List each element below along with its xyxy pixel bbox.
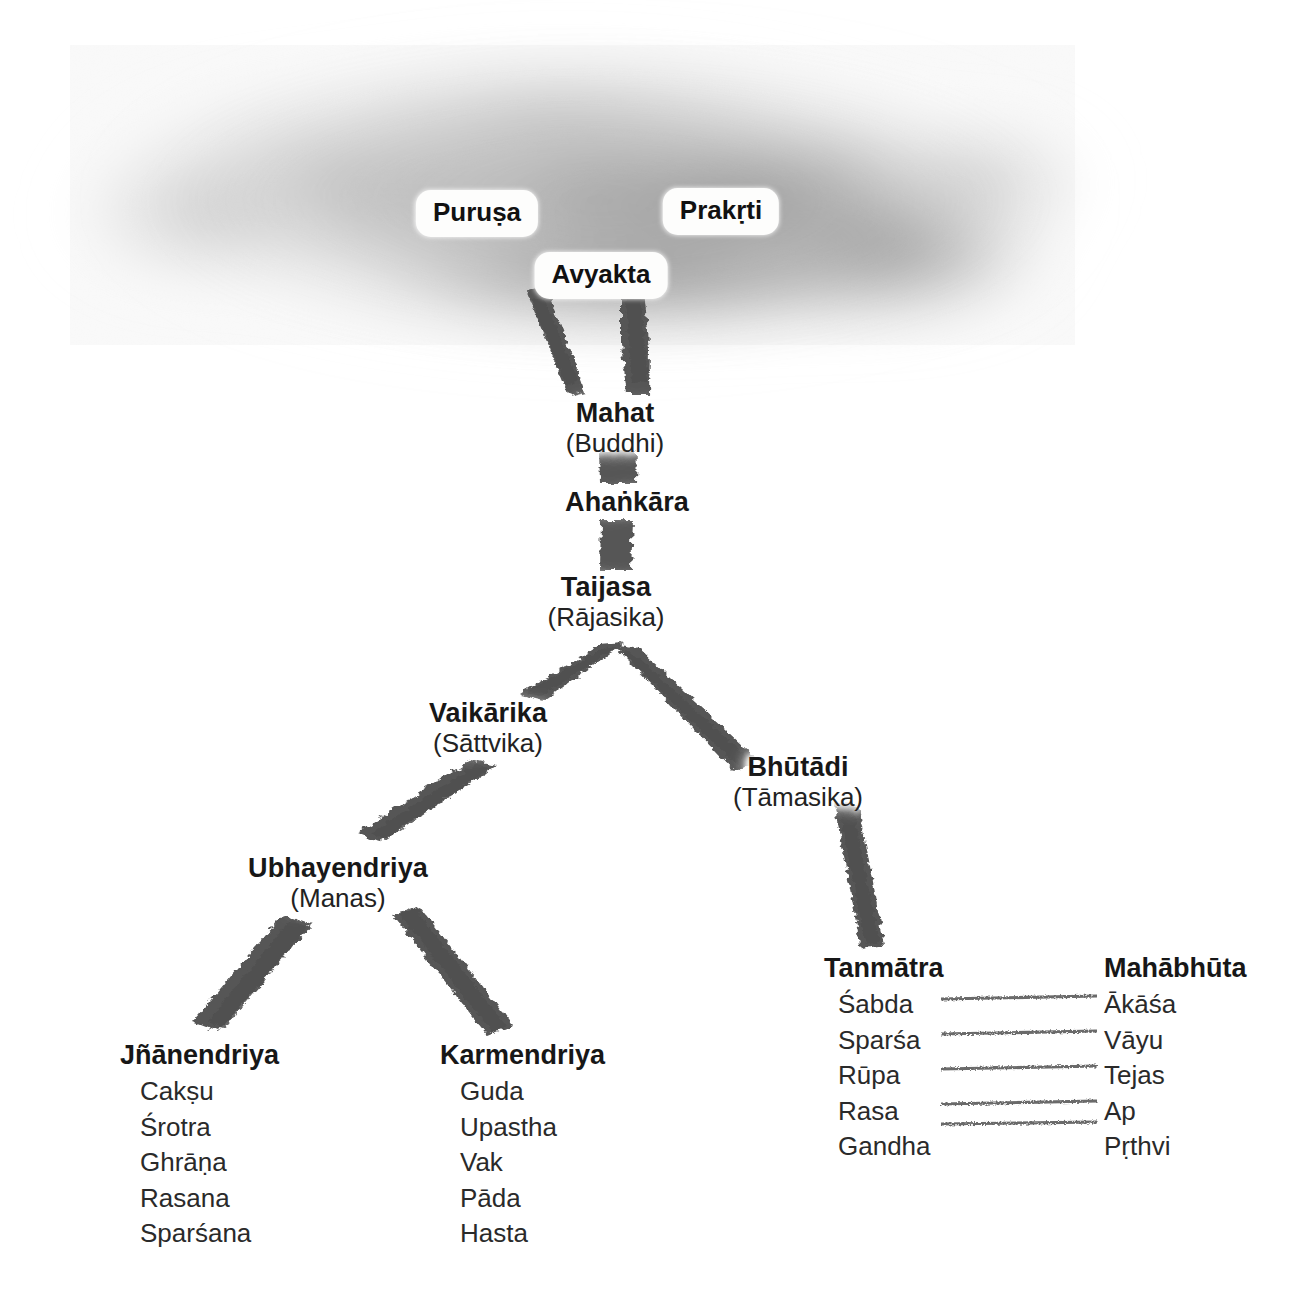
list-karmendriya-items: Guda Upastha Vak Pāda Hasta: [440, 1074, 605, 1252]
list-karmendriya-title: Karmendriya: [440, 1040, 605, 1071]
list-tanmatra: Tanmātra Śabda Sparśa Rūpa Rasa Gandha: [818, 953, 944, 1165]
connector-line-1: [941, 996, 1097, 999]
node-vaikarika[interactable]: Vaikārika (Sāttvika): [429, 698, 547, 758]
list-item: Upastha: [460, 1110, 605, 1146]
stroke-cloud-to-mahat-right: [621, 289, 650, 394]
connector-line-5: [941, 1122, 1097, 1124]
list-karmendriya: Karmendriya Guda Upastha Vak Pāda Hasta: [440, 1040, 605, 1252]
brush-strokes: [192, 289, 884, 1035]
stroke-taijasa-to-vaikarika: [520, 643, 623, 700]
stroke-vaikarika-to-ubhayendriya: [357, 760, 496, 842]
cloud-chip-prakrti[interactable]: Prakṛti: [663, 188, 779, 235]
stroke-ubhayendriya-to-karmendriya: [393, 907, 512, 1035]
list-item: Vāyu: [1104, 1023, 1247, 1059]
list-item: Pṛthvi: [1104, 1129, 1247, 1165]
list-item: Śabda: [838, 987, 944, 1023]
node-ubhayendriya-subtitle: (Manas): [248, 884, 428, 913]
node-ahankara-title: Ahaṅkāra: [565, 487, 689, 517]
list-mahabhuta-title: Mahābhūta: [1104, 953, 1247, 984]
list-item: Pāda: [460, 1181, 605, 1217]
node-bhutadi-subtitle: (Tāmasika): [733, 783, 863, 812]
list-item: Hasta: [460, 1216, 605, 1252]
list-item: Ākāśa: [1104, 987, 1247, 1023]
node-ahankara[interactable]: Ahaṅkāra: [565, 487, 689, 517]
node-mahat-subtitle: (Buddhi): [566, 429, 664, 458]
cloud-chip-purusa[interactable]: Puruṣa: [416, 190, 538, 237]
stroke-ubhayendriya-to-jnanendriya: [192, 915, 312, 1032]
list-item: Śrotra: [140, 1110, 279, 1146]
list-item: Cakṣu: [140, 1074, 279, 1110]
cloud-haze: [100, 50, 1100, 350]
tanmatra-mahabhuta-connectors: [941, 996, 1097, 1124]
list-item: Tejas: [1104, 1058, 1247, 1094]
list-item: Rasa: [838, 1094, 944, 1130]
node-taijasa-subtitle: (Rājasika): [547, 603, 664, 632]
list-mahabhuta: Mahābhūta Ākāśa Vāyu Tejas Ap Pṛthvi: [1104, 953, 1247, 1165]
cloud-chip-avyakta[interactable]: Avyakta: [535, 252, 668, 299]
cloud-grain: [70, 45, 1075, 345]
list-item: Rūpa: [838, 1058, 944, 1094]
node-taijasa[interactable]: Taijasa (Rājasika): [547, 572, 664, 632]
list-tanmatra-items: Śabda Sparśa Rūpa Rasa Gandha: [818, 987, 944, 1165]
connector-line-3: [941, 1066, 1097, 1069]
node-vaikarika-title: Vaikārika: [429, 698, 547, 728]
node-mahat[interactable]: Mahat (Buddhi): [566, 398, 664, 458]
stroke-bhutadi-to-tanmatra: [834, 803, 884, 949]
list-tanmatra-title: Tanmātra: [818, 953, 944, 984]
connector-line-2: [941, 1031, 1097, 1034]
node-taijasa-title: Taijasa: [547, 572, 664, 602]
brush-strokes-overlay: [208, 298, 879, 1032]
node-ubhayendriya[interactable]: Ubhayendriya (Manas): [248, 853, 428, 913]
list-jnanendriya-title: Jñānendriya: [120, 1040, 279, 1071]
list-item: Ghrāṇa: [140, 1145, 279, 1181]
list-item: Ap: [1104, 1094, 1247, 1130]
list-item: Sparśana: [140, 1216, 279, 1252]
node-ubhayendriya-title: Ubhayendriya: [248, 853, 428, 883]
node-bhutadi-title: Bhūtādi: [733, 752, 863, 782]
list-mahabhuta-items: Ākāśa Vāyu Tejas Ap Pṛthvi: [1104, 987, 1247, 1165]
list-item: Rasana: [140, 1181, 279, 1217]
list-jnanendriya-items: Cakṣu Śrotra Ghrāṇa Rasana Sparśana: [120, 1074, 279, 1252]
node-mahat-title: Mahat: [566, 398, 664, 428]
list-item: Vak: [460, 1145, 605, 1181]
connector-line-4: [941, 1101, 1097, 1104]
list-item: Gandha: [838, 1129, 944, 1165]
stroke-cloud-to-mahat-left: [527, 289, 585, 396]
node-vaikarika-subtitle: (Sāttvika): [429, 729, 547, 758]
node-bhutadi[interactable]: Bhūtādi (Tāmasika): [733, 752, 863, 812]
list-jnanendriya: Jñānendriya Cakṣu Śrotra Ghrāṇa Rasana S…: [120, 1040, 279, 1252]
list-item: Guda: [460, 1074, 605, 1110]
stroke-ahankara-to-taijasa: [600, 520, 633, 570]
diagram-canvas: Puruṣa Prakṛti Avyakta Mahat (Buddhi) Ah…: [0, 0, 1303, 1296]
list-item: Sparśa: [838, 1023, 944, 1059]
